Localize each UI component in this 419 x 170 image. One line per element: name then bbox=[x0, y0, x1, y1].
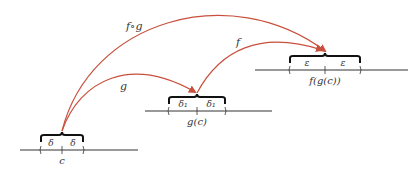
number-line-fgc: ε ε f(g(c)) bbox=[255, 53, 408, 86]
point-gc-label: g(c) bbox=[187, 116, 207, 127]
delta1-left-label: δ₁ bbox=[178, 99, 187, 109]
number-line-c: δ δ c bbox=[20, 132, 138, 166]
epsilon-right-label: ε bbox=[341, 58, 346, 68]
epsilon-left-label: ε bbox=[305, 58, 310, 68]
epsilon-brace bbox=[290, 53, 360, 63]
arrow-g-label: g bbox=[120, 80, 127, 93]
arrow-fog-label: f∘g bbox=[125, 20, 143, 33]
delta-right-label: δ bbox=[70, 138, 75, 148]
delta1-brace bbox=[169, 94, 225, 104]
point-c-label: c bbox=[59, 155, 65, 166]
composition-diagram: δ δ c δ₁ δ₁ g(c) ε ε f(g(c)) g f f∘g bbox=[0, 0, 419, 170]
point-fgc-label: f(g(c)) bbox=[308, 75, 340, 86]
number-line-gc: δ₁ δ₁ g(c) bbox=[145, 94, 272, 127]
delta1-right-label: δ₁ bbox=[206, 99, 215, 109]
arrow-g bbox=[62, 74, 195, 131]
arrow-fog bbox=[62, 16, 325, 131]
arrow-f bbox=[197, 42, 322, 93]
arrow-f-label: f bbox=[235, 36, 242, 49]
delta-left-label: δ bbox=[48, 138, 53, 148]
